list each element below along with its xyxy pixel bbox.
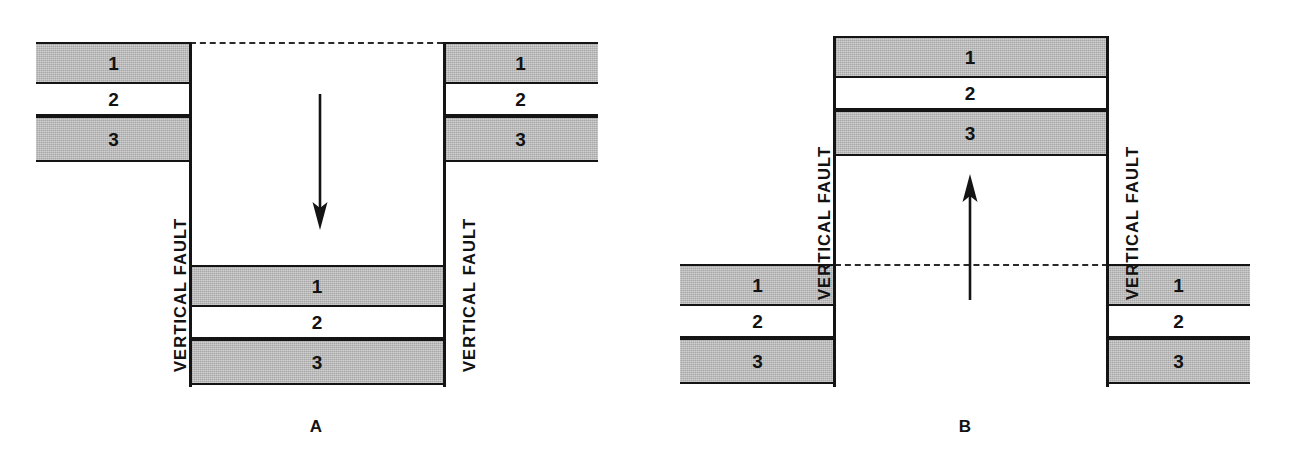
bed-1: 1	[36, 42, 191, 84]
bed-label-3: 3	[191, 353, 443, 372]
panel-a-left-fault-line	[189, 42, 192, 387]
bed-label-2: 2	[443, 90, 598, 109]
panel-b-caption: B	[935, 418, 995, 435]
bed-label-2: 2	[191, 313, 443, 332]
bed-label-1: 1	[191, 277, 443, 296]
bed-label-2: 2	[36, 90, 191, 109]
bed-1: 1	[833, 36, 1107, 78]
bed-3: 3	[191, 339, 443, 385]
bed-2: 2	[1107, 306, 1250, 338]
bed-2: 2	[191, 307, 443, 339]
panel-a-right-fault-label: VERTICAL FAULT	[461, 218, 478, 372]
bed-3: 3	[680, 338, 835, 384]
bed-3: 3	[36, 116, 191, 162]
panel-b-left-fault-label: VERTICAL FAULT	[816, 146, 833, 300]
bed-2: 2	[36, 84, 191, 116]
bed-1: 1	[443, 42, 598, 84]
bed-label-3: 3	[443, 130, 598, 149]
bed-2: 2	[833, 78, 1107, 110]
bed-3: 3	[1107, 338, 1250, 384]
bed-label-3: 3	[680, 352, 835, 371]
bed-label-1: 1	[36, 54, 191, 73]
panel-b-left-fault-line	[833, 36, 836, 387]
panel-a-right-wall-block: 1 2 3	[443, 0, 598, 170]
panel-a-down-arrow	[300, 92, 340, 232]
bed-1: 1	[680, 264, 835, 306]
fault-diagram-figure: 1 2 3 1 2 3 1	[0, 0, 1297, 464]
panel-a-caption: A	[286, 418, 346, 435]
bed-label-3: 3	[1107, 352, 1250, 371]
bed-label-3: 3	[36, 130, 191, 149]
panel-a-left-wall-block: 1 2 3	[36, 0, 191, 170]
panel-a: 1 2 3 1 2 3 1	[0, 0, 650, 464]
panel-b: 1 2 3 1 2 3 1	[650, 0, 1297, 464]
panel-a-right-fault-line	[443, 42, 446, 387]
bed-label-1: 1	[833, 48, 1107, 67]
bed-2: 2	[680, 306, 835, 338]
bed-label-2: 2	[1107, 312, 1250, 331]
panel-b-right-fault-line	[1106, 36, 1109, 387]
bed-3: 3	[833, 110, 1107, 156]
panel-a-left-fault-label: VERTICAL FAULT	[172, 218, 189, 372]
panel-b-left-wall-block: 1 2 3	[680, 0, 835, 400]
bed-2: 2	[443, 84, 598, 116]
bed-label-2: 2	[680, 312, 835, 331]
panel-b-right-fault-label: VERTICAL FAULT	[1124, 146, 1141, 300]
bed-label-1: 1	[443, 54, 598, 73]
bed-label-3: 3	[833, 124, 1107, 143]
panel-b-up-arrow	[950, 172, 990, 302]
bed-3: 3	[443, 116, 598, 162]
bed-label-1: 1	[680, 276, 835, 295]
bed-label-2: 2	[833, 84, 1107, 103]
bed-1: 1	[191, 265, 443, 307]
